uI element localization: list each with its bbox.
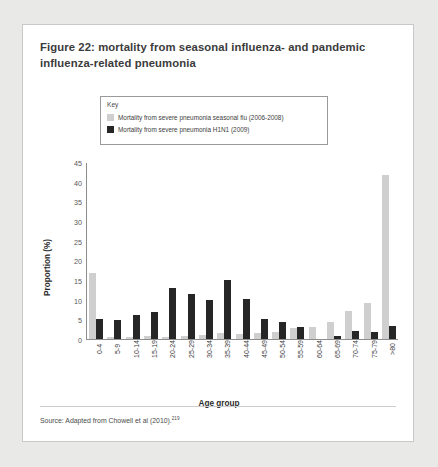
legend-item-h1n1: Mortality from severe pneumonia H1N1 (20… [107, 126, 249, 133]
x-axis-tick-label: 40-44 [243, 340, 250, 358]
figure-card: Figure 22: mortality from seasonal influ… [22, 24, 414, 442]
legend-item-seasonal-flu: Mortality from severe pneumonia seasonal… [107, 114, 284, 121]
x-axis-tick-label: 60-64 [316, 340, 323, 358]
bar-seasonal-flu [364, 303, 371, 339]
x-axis-tick: 75-79 [364, 347, 378, 393]
bar-seasonal-flu [126, 337, 133, 339]
bar-group [89, 163, 103, 339]
bar-seasonal-flu [382, 175, 389, 339]
x-axis-tick-label: 55-59 [297, 340, 304, 358]
bar-seasonal-flu [89, 273, 96, 339]
y-axis-tick-label: 15 [74, 277, 82, 286]
bar-seasonal-flu [199, 335, 206, 339]
legend-swatch-seasonal-flu [107, 114, 114, 121]
x-axis-tick-label: 70-74 [352, 340, 359, 358]
x-axis-tick: 5-9 [107, 347, 121, 393]
bar-group [126, 163, 140, 339]
bar-group [382, 163, 396, 339]
x-axis-tick-label: 5-9 [114, 344, 121, 354]
x-axis-tick: 55-59 [290, 347, 304, 393]
x-axis-tick: 70-74 [345, 347, 359, 393]
y-axis-tick-label: 0 [78, 336, 82, 345]
bar-group [107, 163, 121, 339]
figure-source-ref: 219 [172, 416, 180, 421]
bar-group [290, 163, 304, 339]
bar-seasonal-flu [107, 337, 114, 339]
bar-group [181, 163, 195, 339]
chart-legend: Key Mortality from severe pneumonia seas… [100, 96, 328, 145]
bar-seasonal-flu [236, 334, 243, 339]
bar-group [144, 163, 158, 339]
bar-group [254, 163, 268, 339]
y-axis-tick-label: 10 [74, 296, 82, 305]
figure-source-text: Source: Adapted from Chowell et al (2010… [40, 417, 172, 424]
x-axis-tick: 15-19 [144, 347, 158, 393]
bar-group [272, 163, 286, 339]
x-axis-tick-label: 50-54 [279, 340, 286, 358]
bar-seasonal-flu [345, 311, 352, 339]
bar-group [327, 163, 341, 339]
bar-h1n1 [224, 280, 231, 339]
bar-group [162, 163, 176, 339]
bar-h1n1 [297, 327, 304, 339]
bar-h1n1 [352, 331, 359, 339]
footer-divider [40, 406, 396, 407]
bar-seasonal-flu [144, 336, 151, 339]
x-axis-tick-label: 45-49 [261, 340, 268, 358]
bar-seasonal-flu [290, 328, 297, 339]
x-axis-tick-label: 20-24 [169, 340, 176, 358]
bar-group [364, 163, 378, 339]
x-axis-tick-label: 10-14 [133, 340, 140, 358]
bar-group [217, 163, 231, 339]
bar-h1n1 [133, 315, 140, 339]
bar-seasonal-flu [272, 332, 279, 339]
x-axis-tick: 10-14 [126, 347, 140, 393]
x-axis-tick-label: 0-4 [96, 344, 103, 354]
legend-swatch-h1n1 [107, 126, 114, 133]
y-axis-tick-label: 40 [74, 178, 82, 187]
x-axis-tick: >80 [382, 347, 396, 393]
x-axis-ticks: 0-45-910-1415-1920-2425-2930-3435-3940-4… [87, 347, 398, 393]
bar-h1n1 [96, 319, 103, 339]
y-axis-tick-label: 25 [74, 237, 82, 246]
y-axis-tick-label: 5 [78, 316, 82, 325]
bar-h1n1 [114, 320, 121, 339]
x-axis-tick-label: 25-29 [188, 340, 195, 358]
bar-seasonal-flu [181, 336, 188, 339]
y-axis-tick-label: 45 [74, 159, 82, 168]
x-axis-tick: 50-54 [272, 347, 286, 393]
bar-h1n1 [243, 299, 250, 339]
x-axis-tick: 45-49 [254, 347, 268, 393]
bar-group [345, 163, 359, 339]
bar-h1n1 [206, 300, 213, 339]
bar-group [236, 163, 250, 339]
x-axis-tick: 35-39 [217, 347, 231, 393]
x-axis-tick-label: >80 [389, 343, 396, 355]
bar-seasonal-flu [309, 327, 316, 339]
x-axis-tick: 20-24 [162, 347, 176, 393]
x-axis-tick-label: 15-19 [151, 340, 158, 358]
x-axis-tick: 0-4 [89, 347, 103, 393]
x-axis-tick-label: 75-79 [371, 340, 378, 358]
bar-group [309, 163, 323, 339]
bar-series-container [87, 163, 398, 339]
figure-title: Figure 22: mortality from seasonal influ… [40, 39, 392, 72]
x-axis-tick: 30-34 [199, 347, 213, 393]
x-axis-tick: 60-64 [309, 347, 323, 393]
legend-label-seasonal-flu: Mortality from severe pneumonia seasonal… [118, 114, 284, 121]
bar-h1n1 [334, 336, 341, 339]
y-axis-title: Proportion (%) [43, 222, 52, 314]
bar-h1n1 [151, 312, 158, 339]
legend-title: Key [107, 101, 118, 108]
axis-area: 051015202530354045 [86, 163, 398, 340]
bar-group [199, 163, 213, 339]
y-axis-tick-label: 35 [74, 198, 82, 207]
y-axis-tick-label: 20 [74, 257, 82, 266]
x-axis-tick: 65-69 [327, 347, 341, 393]
x-axis-tick: 25-29 [181, 347, 195, 393]
bar-h1n1 [169, 288, 176, 339]
bar-seasonal-flu [162, 337, 169, 339]
bar-h1n1 [389, 326, 396, 339]
x-axis-tick-label: 30-34 [206, 340, 213, 358]
x-axis-tick-label: 65-69 [334, 340, 341, 358]
